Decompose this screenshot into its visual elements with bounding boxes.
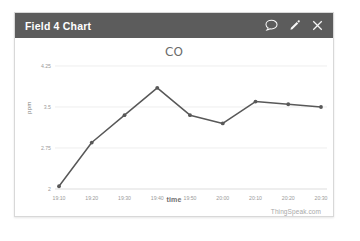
- edit-icon[interactable]: [288, 19, 301, 32]
- y-axis-tick-label: 2.75: [41, 145, 51, 151]
- data-point: [286, 102, 290, 106]
- data-point-markers: [57, 86, 323, 188]
- data-point: [319, 105, 323, 109]
- y-axis-tick-labels: 4.253.52.752: [41, 63, 51, 192]
- line-chart-svg: 4.253.52.752 19:1019:2019:3019:4019:5020…: [15, 38, 333, 216]
- widget-header: Field 4 Chart: [15, 13, 333, 38]
- data-point: [188, 113, 192, 117]
- thingspeak-watermark: ThingSpeak.com: [271, 208, 321, 215]
- x-axis-title: time: [15, 196, 333, 203]
- gridlines: [55, 66, 327, 189]
- data-point: [57, 184, 61, 188]
- data-point: [90, 141, 94, 145]
- comment-icon[interactable]: [265, 19, 278, 32]
- header-actions: [265, 19, 324, 32]
- close-icon[interactable]: [311, 19, 324, 32]
- data-line-series-co: [59, 88, 321, 186]
- data-point: [254, 100, 258, 104]
- chart-widget-card: Field 4 Chart CO ppm: [14, 12, 334, 217]
- data-point: [155, 86, 159, 90]
- data-point: [221, 122, 225, 126]
- y-axis-tick-label: 3.5: [44, 104, 51, 110]
- y-axis-tick-label: 4.25: [41, 63, 51, 69]
- widget-title: Field 4 Chart: [25, 20, 265, 32]
- chart-plot-area: CO ppm 4.253.52.752 19:1019:2019:3019:40…: [15, 38, 333, 216]
- y-axis-tick-label: 2: [48, 186, 51, 192]
- data-point: [123, 113, 127, 117]
